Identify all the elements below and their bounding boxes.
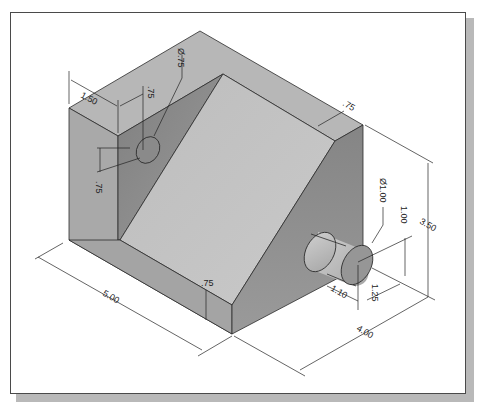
dim-boss-length: 1.10 [329, 283, 349, 300]
dim-length: 5.00 [101, 288, 121, 305]
dim-boss-height: 1.00 [399, 206, 409, 224]
part-body [69, 31, 363, 334]
dim-slope-ledge-top: .75 [341, 98, 357, 113]
dim-hole-offset-horizontal: .75 [146, 86, 156, 99]
dim-width: 4.00 [355, 323, 375, 340]
isometric-drawing: 1.50 .75 Ø.75 .75 .75 Ø1.00 1.00 3.50 1.… [0, 0, 484, 406]
dim-boss-diameter: Ø1.00 [378, 178, 388, 203]
dim-hole-offset-vertical: .75 [94, 181, 104, 194]
dim-hole-diameter: Ø.75 [176, 48, 186, 68]
dim-boss-offset: 1.25 [370, 284, 380, 302]
dim-front-ledge: .75 [201, 278, 214, 288]
